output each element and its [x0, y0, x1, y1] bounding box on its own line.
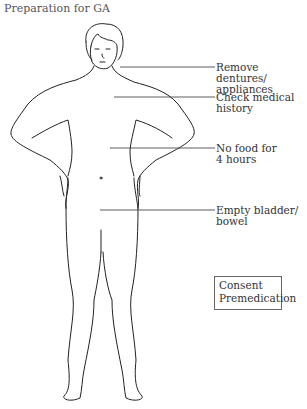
- consent-premedication-box: Consent Premedication: [214, 276, 282, 310]
- label-empty-bladder: Empty bladder/ bowel: [216, 205, 298, 227]
- label-line: Remove dentures/: [216, 62, 307, 84]
- box-line-consent: Consent: [219, 279, 277, 292]
- label-no-food: No food for 4 hours: [216, 143, 277, 165]
- label-line: 4 hours: [216, 154, 277, 165]
- box-line-premedication: Premedication: [219, 292, 277, 305]
- label-line: bowel: [216, 216, 298, 227]
- label-line: history: [216, 103, 294, 114]
- label-check-medical-history: Check medical history: [216, 92, 294, 114]
